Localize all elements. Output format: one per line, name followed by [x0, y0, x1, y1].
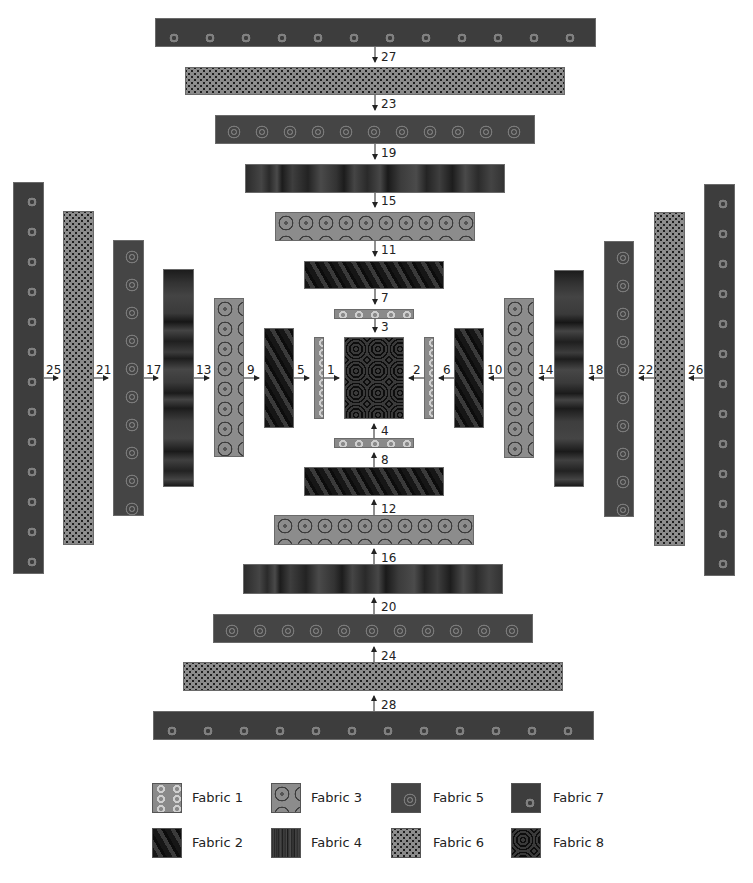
strip-15: [245, 164, 505, 193]
strip-16: [243, 564, 503, 594]
center-block: [344, 337, 404, 419]
label-18: 18: [588, 364, 603, 376]
strip-28: [153, 711, 594, 740]
label-3: 3: [381, 321, 389, 333]
legend-label-fabric-8: Fabric 8: [553, 835, 604, 850]
strip-27: [155, 18, 596, 47]
label-4: 4: [381, 425, 389, 437]
strip-9: [214, 298, 244, 457]
legend-label-fabric-1: Fabric 1: [192, 790, 243, 805]
legend-label-fabric-5: Fabric 5: [433, 790, 484, 805]
label-10: 10: [487, 364, 502, 376]
label-9: 9: [247, 364, 255, 376]
legend-swatch-fabric-4: [271, 828, 301, 858]
strip-1: [314, 337, 324, 419]
legend-swatch-fabric-1: [152, 783, 182, 813]
label-23: 23: [381, 98, 396, 110]
legend-swatch-fabric-6: [391, 828, 421, 858]
label-25: 25: [46, 364, 61, 376]
legend-label-fabric-6: Fabric 6: [433, 835, 484, 850]
strip-3: [334, 309, 414, 319]
label-20: 20: [381, 601, 396, 613]
strip-19: [215, 115, 535, 144]
label-26: 26: [688, 364, 703, 376]
label-22: 22: [638, 364, 653, 376]
strip-2: [424, 337, 434, 419]
legend-swatch-fabric-8: [511, 828, 541, 858]
label-27: 27: [381, 51, 396, 63]
legend-swatch-fabric-3: [271, 783, 301, 813]
strip-17: [113, 240, 144, 516]
label-16: 16: [381, 552, 396, 564]
legend-label-fabric-7: Fabric 7: [553, 790, 604, 805]
strip-6: [454, 328, 484, 428]
strip-8: [304, 467, 444, 496]
label-17: 17: [146, 364, 161, 376]
strip-11: [275, 212, 475, 241]
strip-18: [604, 241, 634, 517]
label-19: 19: [381, 147, 396, 159]
legend-swatch-fabric-2: [152, 828, 182, 858]
label-24: 24: [381, 650, 396, 662]
label-14: 14: [538, 364, 553, 376]
legend-swatch-fabric-7: [511, 783, 541, 813]
legend-label-fabric-4: Fabric 4: [311, 835, 362, 850]
label-7: 7: [381, 292, 389, 304]
label-11: 11: [381, 244, 396, 256]
legend-label-fabric-3: Fabric 3: [311, 790, 362, 805]
label-28: 28: [381, 699, 396, 711]
strip-10: [504, 298, 534, 458]
label-6: 6: [443, 364, 451, 376]
strip-24: [183, 662, 563, 691]
strip-20: [213, 614, 533, 643]
label-5: 5: [297, 364, 305, 376]
strip-26: [704, 184, 735, 576]
label-2: 2: [413, 364, 421, 376]
strip-12: [274, 515, 474, 545]
strip-23: [185, 67, 565, 95]
strip-22: [654, 212, 685, 546]
legend-swatch-fabric-5: [391, 783, 421, 813]
label-15: 15: [381, 195, 396, 207]
strip-21: [63, 211, 94, 545]
strip-7: [304, 261, 444, 289]
strip-25: [13, 182, 44, 574]
strip-4: [334, 438, 414, 448]
strip-14: [554, 270, 584, 487]
label-8: 8: [381, 454, 389, 466]
label-21: 21: [96, 364, 111, 376]
legend-label-fabric-2: Fabric 2: [192, 835, 243, 850]
label-13: 13: [196, 364, 211, 376]
label-12: 12: [381, 503, 396, 515]
strip-5: [264, 328, 294, 428]
strip-13: [163, 269, 194, 487]
label-1: 1: [327, 364, 335, 376]
